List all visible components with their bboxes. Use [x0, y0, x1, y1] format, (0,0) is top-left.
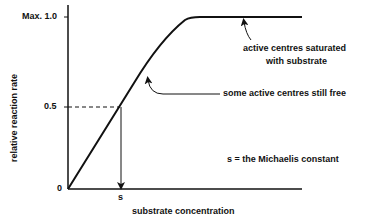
x-axis-label: substrate concentration [132, 206, 235, 216]
y-tick-max: Max. 1.0 [22, 11, 57, 21]
annotation-saturated-2: with substrate [266, 56, 327, 66]
y-tick-zero: 0 [57, 183, 62, 193]
annotation-saturated-1: active centres saturated [243, 43, 346, 53]
saturated-arrow [244, 22, 251, 40]
annotation-definition: s = the Michaelis constant [227, 154, 339, 164]
free-arrow [148, 80, 220, 94]
annotation-free: some active centres still free [223, 88, 346, 98]
y-axis-label: relative reaction rate [9, 74, 19, 162]
michaelis-menten-plot [0, 0, 365, 224]
x-tick-s: s [118, 192, 123, 202]
y-tick-half: 0.5 [44, 101, 57, 111]
